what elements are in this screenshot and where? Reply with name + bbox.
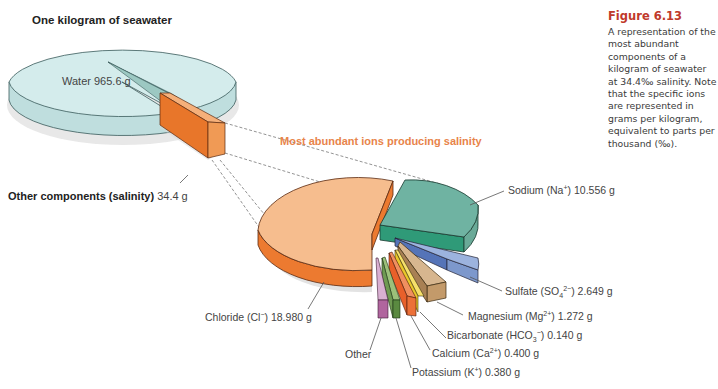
water-label: Water 965.6 g [62,75,131,87]
sulfate-value: ) 2.649 g [571,285,612,297]
bicarbonate-value: ) 0.140 g [541,329,582,341]
sulfate-label: Sulfate (SO42−) 2.649 g [505,285,613,297]
right-pie-title: Most abundant ions producing salinity [280,135,482,147]
left-pie-title: One kilogram of seawater [32,14,172,26]
sodium-name: Sodium (Na [508,184,563,196]
sulfate-subscript: 4 [559,292,563,299]
bicarbonate-label: Bicarbonate (HCO3−) 0.140 g [447,329,582,341]
other-components-value: 34.4 g [157,190,188,202]
calcium-name: Calcium (Ca [432,347,490,359]
figure-caption-text: A representation of the most abundant co… [608,26,718,150]
other-ions-label: Other [345,348,371,360]
chloride-value: ) 18.980 g [265,311,312,323]
chloride-name: Chloride (Cl [205,311,260,323]
calcium-label: Calcium (Ca2+) 0.400 g [432,347,539,359]
potassium-label: Potassium (K+) 0.380 g [412,366,520,378]
potassium-name: Potassium (K [412,366,474,378]
bicarbonate-name: Bicarbonate (HCO [447,329,533,341]
magnesium-name: Magnesium (Mg [468,310,543,322]
sodium-value: ) 10.556 g [568,184,615,196]
sodium-label: Sodium (Na+) 10.556 g [508,184,615,196]
other-components-label: Other components (salinity) 34.4 g [8,190,188,202]
calcium-value: ) 0.400 g [498,347,539,359]
sulfate-charge: 2− [563,285,571,292]
figure-number: Figure 6.13 [608,9,718,23]
chloride-slice [258,177,393,292]
figure-caption: Figure 6.13 A representation of the most… [608,9,718,150]
bicarbonate-subscript: 3 [533,336,537,343]
magnesium-label: Magnesium (Mg2+) 1.272 g [468,310,593,322]
potassium-value: ) 0.380 g [479,366,520,378]
magnesium-value: ) 1.272 g [551,310,592,322]
calcium-charge: 2+ [490,347,498,354]
other-components-name: Other components (salinity) [8,190,154,202]
sulfate-name: Sulfate (SO [505,285,559,297]
chloride-label: Chloride (Cl−) 18.980 g [205,311,312,323]
